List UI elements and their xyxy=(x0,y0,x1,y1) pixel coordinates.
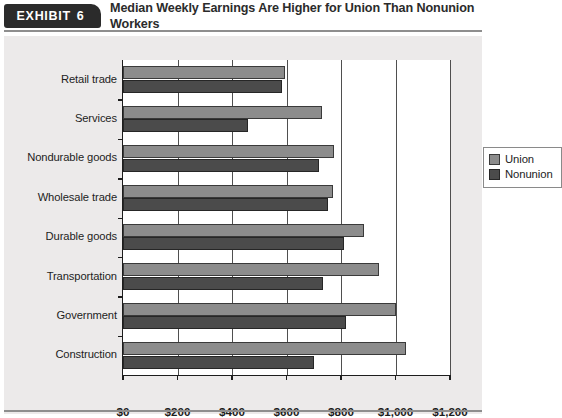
bar-union xyxy=(123,342,406,355)
bar-union xyxy=(123,66,285,79)
category-tick-mark xyxy=(118,296,123,297)
figure-bottom-divider xyxy=(4,410,482,412)
bar-nonunion xyxy=(123,198,328,211)
header-divider xyxy=(4,30,482,32)
category-tick-mark xyxy=(118,218,123,219)
value-tick-mark xyxy=(449,375,450,380)
bar-nonunion xyxy=(123,80,282,93)
bar-nonunion xyxy=(123,119,248,132)
category-label: Services xyxy=(75,112,117,124)
category-label: Construction xyxy=(55,348,117,360)
category-tick-mark xyxy=(118,99,123,100)
bar-nonunion xyxy=(123,237,344,250)
gridline xyxy=(396,60,397,375)
legend-swatch-nonunion-icon xyxy=(489,169,500,180)
category-label: Durable goods xyxy=(46,230,117,242)
exhibit-title: Median Weekly Earnings Are Higher for Un… xyxy=(110,1,478,32)
value-tick-mark xyxy=(340,375,341,380)
category-label: Government xyxy=(56,309,117,321)
legend-label-union: Union xyxy=(505,153,534,166)
legend-swatch-union-icon xyxy=(489,154,500,165)
category-tick-mark xyxy=(118,139,123,140)
bar-nonunion xyxy=(123,159,319,172)
legend-label-nonunion: Nonunion xyxy=(505,168,553,181)
chart-legend: Union Nonunion xyxy=(483,147,562,188)
value-tick-mark xyxy=(395,375,396,380)
legend-item-nonunion: Nonunion xyxy=(489,167,556,182)
bar-union xyxy=(123,145,334,158)
category-label: Transportation xyxy=(47,270,117,282)
category-label: Nondurable goods xyxy=(27,151,117,163)
category-tick-mark xyxy=(118,178,123,179)
plot-area: $0$200$400$600$800$1,000$1,200 Union Non… xyxy=(122,60,450,376)
exhibit-badge-word: EXHIBIT xyxy=(17,9,71,23)
category-tick-mark xyxy=(118,336,123,337)
bar-union xyxy=(123,185,333,198)
exhibit-badge-number: 6 xyxy=(77,9,85,23)
legend-item-union: Union xyxy=(489,152,556,167)
bar-union xyxy=(123,106,322,119)
exhibit-badge: EXHIBIT 6 xyxy=(4,4,101,28)
category-label: Wholesale trade xyxy=(38,191,117,203)
bar-union xyxy=(123,303,396,316)
value-tick-mark xyxy=(231,375,232,380)
bar-union xyxy=(123,263,379,276)
bar-nonunion xyxy=(123,277,323,290)
category-tick-mark xyxy=(118,257,123,258)
bar-union xyxy=(123,224,364,237)
value-tick-mark xyxy=(286,375,287,380)
category-axis-labels: Retail tradeServicesNondurable goodsWhol… xyxy=(4,60,117,375)
chart-figure: Retail tradeServicesNondurable goodsWhol… xyxy=(4,36,482,414)
category-label: Retail trade xyxy=(61,73,117,85)
bar-nonunion xyxy=(123,316,346,329)
value-tick-mark xyxy=(122,375,123,380)
gridline xyxy=(450,60,451,375)
bar-nonunion xyxy=(123,356,314,369)
value-tick-mark xyxy=(177,375,178,380)
